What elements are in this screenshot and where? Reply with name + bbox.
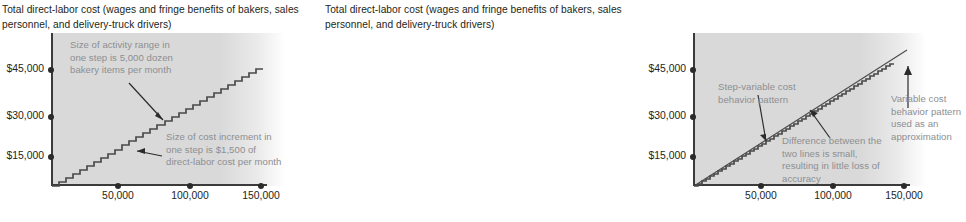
chart-caption-left: Total direct-labor cost (wages and fring… — [2, 3, 312, 32]
y-tick-15000 — [48, 154, 54, 160]
annotation-difference: Difference between the two lines is smal… — [782, 135, 887, 185]
y-axis-label-15000: $15,000 — [0, 150, 44, 161]
x-axis-label-50000: 50,000 — [745, 190, 777, 201]
y-tick-45000 — [48, 67, 54, 73]
x-axis-line — [51, 184, 267, 186]
y-axis-label-15000: $15,000 — [634, 150, 686, 161]
chart-panel-left: Total direct-labor cost (wages and fring… — [0, 0, 321, 222]
annotation-variable-cost-approximation: Variable cost behavior pattern used as a… — [891, 93, 966, 143]
chart-panel-right: Total direct-labor cost (wages and fring… — [321, 0, 643, 222]
y-tick-45000 — [690, 67, 696, 73]
x-axis-label-150000: 150,000 — [885, 190, 923, 201]
y-axis-line — [51, 33, 53, 186]
x-tick-50000 — [758, 183, 764, 189]
y-tick-30000 — [690, 114, 696, 120]
y-axis-label-45000: $45,000 — [634, 63, 686, 74]
annotation-cost-increment: Size of cost increment in one step is $1… — [166, 131, 284, 169]
y-tick-30000 — [48, 114, 54, 120]
x-axis-label-150000: 150,000 — [242, 190, 280, 201]
y-tick-15000 — [690, 154, 696, 160]
plot-area-left: $45,000 $30,000 $15,000 50,000 100,000 1… — [52, 33, 285, 186]
x-tick-50000 — [115, 183, 121, 189]
x-tick-150000 — [258, 183, 264, 189]
y-axis-label-45000: $45,000 — [0, 63, 44, 74]
x-tick-100000 — [187, 183, 193, 189]
x-axis-label-50000: 50,000 — [102, 190, 134, 201]
plot-area-right: $45,000 $30,000 $15,000 50,000 100,000 1… — [694, 33, 926, 186]
chart-caption-right: Total direct-labor cost (wages and fring… — [325, 3, 637, 32]
x-axis-label-100000: 100,000 — [814, 190, 852, 201]
y-axis-label-30000: $30,000 — [634, 110, 686, 121]
y-axis-label-30000: $30,000 — [0, 110, 44, 121]
y-axis-line — [693, 33, 695, 186]
annotation-step-variable-pattern: Step-variable cost behavior pattern — [718, 81, 814, 106]
x-axis-label-100000: 100,000 — [171, 190, 209, 201]
annotation-activity-range: Size of activity range in one step is 5,… — [70, 39, 182, 77]
x-tick-150000 — [901, 183, 907, 189]
